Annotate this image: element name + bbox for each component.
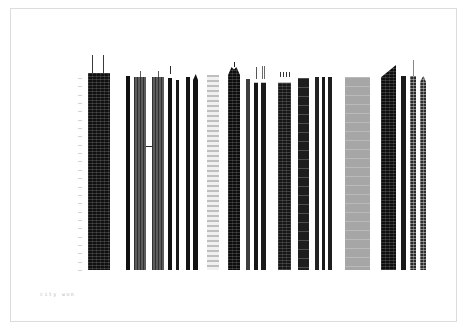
banded-tower-facade-texture (298, 78, 309, 270)
grey-slab-tower-shaft (345, 77, 370, 270)
crowned-tower-facade-texture (278, 77, 291, 270)
slim-tower-g (322, 77, 325, 270)
slim-tower-g-shaft (322, 77, 325, 270)
grey-slab-tower-facade-texture (345, 77, 370, 270)
slim-tower-f-shaft (315, 77, 319, 270)
poster-caption: city won (40, 291, 75, 297)
crowned-tower-antenna-3 (286, 72, 287, 77)
slim-tower-b (168, 74, 172, 270)
antenna-tower-shaft (410, 76, 416, 270)
slim-tower-b-antenna-1 (170, 66, 171, 74)
slim-tower-a-shaft (126, 76, 130, 270)
bevel-tower-shaft (420, 76, 426, 270)
slab-tower-b (193, 74, 198, 270)
poster-canvas: city won (0, 0, 468, 332)
petronas-tower-1 (134, 77, 146, 270)
crowned-tower-antenna-4 (289, 72, 290, 77)
pale-striped-tower (207, 75, 219, 270)
willis-tower-shaft (88, 73, 110, 270)
slim-tower-i-shaft (401, 76, 406, 270)
pointed-tower-facade-texture (228, 67, 240, 270)
sky-bridge-shaft (146, 146, 152, 147)
crowned-tower-antenna-1 (280, 72, 281, 77)
slanted-top-tower-shaft (381, 65, 396, 270)
crowned-tower (278, 77, 291, 270)
slab-tower-a-shaft (186, 77, 190, 270)
bevel-tower (420, 76, 426, 270)
slim-tower-a (126, 76, 130, 270)
pale-striped-tower-shaft (207, 75, 219, 270)
antenna-tower-facade-texture (410, 76, 416, 270)
antenna-tower (410, 76, 416, 270)
slim-tower-f (315, 77, 319, 270)
slanted-top-tower-facade-texture (381, 65, 396, 270)
petronas-tower-2-facade-texture (152, 77, 164, 270)
banded-tower (298, 78, 309, 270)
slim-tower-h (328, 77, 332, 270)
slim-tower-d (246, 79, 250, 270)
slim-tower-e-shaft (254, 79, 258, 270)
sky-bridge (146, 146, 152, 147)
slab-tower-a (186, 77, 190, 270)
slim-tower-c (176, 80, 179, 270)
twin-spire-tower-antenna-2 (264, 66, 265, 79)
pointed-tower-shaft (228, 67, 240, 270)
petronas-tower-1-shaft (134, 77, 146, 270)
slim-tower-e-antenna-1 (256, 67, 257, 79)
willis-tower-antenna-1 (92, 55, 93, 73)
poster-stage: city won (0, 0, 468, 332)
skyline-chart (0, 0, 468, 332)
twin-spire-tower-shaft (261, 79, 266, 270)
pale-striped-tower-facade-texture (207, 75, 219, 270)
crowned-tower-antenna-2 (283, 72, 284, 77)
pointed-tower (228, 67, 240, 270)
petronas-tower-1-antenna-1 (140, 71, 141, 77)
willis-tower (88, 73, 110, 270)
grey-slab-tower (345, 77, 370, 270)
slanted-top-tower (381, 65, 396, 270)
willis-tower-antenna-2 (103, 55, 104, 73)
slim-tower-c-shaft (176, 80, 179, 270)
twin-spire-tower-antenna-1 (262, 66, 263, 79)
petronas-tower-2-shaft (152, 77, 164, 270)
slim-tower-h-shaft (328, 77, 332, 270)
petronas-tower-2 (152, 77, 164, 270)
slim-tower-i (401, 76, 406, 270)
slim-tower-e (254, 79, 258, 270)
slab-tower-b-shaft (193, 74, 198, 270)
slim-tower-d-shaft (246, 79, 250, 270)
banded-tower-shaft (298, 78, 309, 270)
antenna-tower-antenna-1 (413, 60, 414, 76)
pointed-tower-antenna-1 (234, 62, 235, 67)
twin-spire-tower (261, 79, 266, 270)
petronas-tower-2-antenna-1 (158, 71, 159, 77)
petronas-tower-1-facade-texture (134, 77, 146, 270)
slim-tower-b-shaft (168, 74, 172, 270)
bevel-tower-facade-texture (420, 76, 426, 270)
willis-tower-facade-texture (88, 73, 110, 270)
crowned-tower-shaft (278, 77, 291, 270)
